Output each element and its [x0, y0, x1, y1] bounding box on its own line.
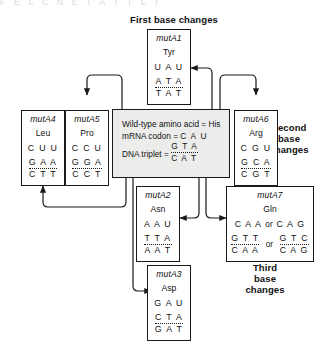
wire-center-to-muta2 [180, 178, 199, 218]
heading-first-base-changes: First base changes [114, 14, 234, 25]
figure-canvas: F E L C N E T A T T L T Fir [0, 0, 318, 349]
muta4-dna-triplet: G A A C T T [29, 158, 58, 179]
muta5-dna-bottom: C C T [72, 169, 102, 179]
node-muta7: mutA7 Gln C A A or C A G G T T C A A or … [226, 186, 314, 262]
muta7-dna-or: or [266, 240, 273, 250]
muta5-mrna-codon: C C U [66, 143, 108, 153]
muta5-dna-triplet: G G A C C T [72, 158, 102, 179]
wire-center-to-muta6 [220, 75, 256, 109]
muta3-dna-triplet: C T A G A T [155, 313, 183, 334]
muta7-dna-triplet-a: G T T C A A [231, 234, 259, 255]
muta1-label: mutA1 [148, 33, 190, 43]
muta7-mrna-a: C A A [235, 219, 262, 229]
wildtype-dna-top: G T A [171, 142, 198, 153]
muta7-dna-triplets: G T T C A A or G T C C A G [227, 234, 313, 255]
node-muta6: mutA6 Arg C G U G C A C G T [234, 110, 278, 186]
muta7-mrna-or: or [265, 219, 272, 229]
muta2-mrna-codon: A A U [137, 219, 179, 229]
muta4-label: mutA4 [22, 114, 64, 124]
muta7-dna-triplet-b: G T C C A G [280, 234, 309, 255]
muta2-dna-top: T T A [144, 234, 171, 245]
muta3-amino-acid: Asp [148, 283, 190, 293]
muta5-amino-acid: Pro [66, 128, 108, 138]
muta4-amino-acid: Leu [22, 128, 64, 138]
node-muta1: mutA1 Tyr U A U A T A T A T [147, 29, 191, 105]
wildtype-line-amino-acid: Wild-type amino acid = His [122, 119, 229, 131]
muta1-dna-bottom: T A T [155, 88, 182, 98]
wildtype-aa-label: Wild-type amino acid = [122, 119, 206, 129]
muta5-label: mutA5 [66, 114, 108, 124]
muta2-dna-triplet: T T A A A T [144, 234, 171, 255]
muta6-amino-acid: Arg [235, 128, 277, 138]
node-muta2: mutA2 Asn A A U T T A A A T [136, 186, 180, 262]
wildtype-line-dna: DNA triplet = G T A C A T [122, 142, 229, 163]
wire-center-to-muta5 [87, 75, 122, 109]
muta7-dna-a-top: G T T [231, 234, 259, 245]
muta2-label: mutA2 [137, 190, 179, 200]
heading-third-line3: changes [236, 284, 294, 295]
wire-center-to-muta7 [206, 178, 226, 218]
muta7-mrna-b: C A G [276, 219, 305, 229]
node-muta3: mutA3 Asp G A U C T A G A T [147, 265, 191, 341]
wildtype-dna-bottom: C A T [171, 153, 198, 163]
wire-center-to-muta1 [191, 68, 212, 109]
muta4-mrna-codon: C U U [22, 143, 64, 153]
muta3-mrna-codon: G A U [148, 298, 190, 308]
muta7-dna-a-bottom: C A A [231, 245, 259, 255]
muta6-dna-top: G C A [241, 158, 271, 169]
muta2-dna-bottom: A A T [144, 245, 171, 255]
muta5-dna-top: G G A [72, 158, 102, 169]
muta6-mrna-codon: C G U [235, 143, 277, 153]
muta7-dna-b-top: G T C [280, 234, 309, 245]
wildtype-dna-label: DNA triplet = [122, 149, 169, 159]
muta7-amino-acid: Gln [227, 204, 313, 214]
muta6-dna-bottom: C G T [241, 169, 271, 179]
wildtype-aa-value: His [208, 119, 220, 129]
heading-third-line1: Third [236, 262, 294, 273]
heading-third-line2: base [236, 273, 294, 284]
muta1-amino-acid: Tyr [148, 47, 190, 57]
muta6-label: mutA6 [235, 114, 277, 124]
muta3-label: mutA3 [148, 269, 190, 279]
muta7-dna-b-bottom: C A G [280, 245, 309, 255]
wildtype-mrna-value: C A U [180, 131, 207, 141]
wildtype-panel: Wild-type amino acid = His mRNA codon = … [112, 109, 230, 178]
muta4-dna-bottom: C T T [29, 169, 58, 179]
muta7-mrna-codons: C A A or C A G [227, 219, 313, 229]
wildtype-dna-triplet: G T A C A T [171, 142, 198, 163]
muta4-dna-top: G A A [29, 158, 58, 169]
muta1-dna-top: A T A [155, 77, 182, 88]
node-muta4: mutA4 Leu C U U G A A C T T [21, 110, 65, 186]
muta3-dna-bottom: G A T [155, 324, 183, 334]
muta3-dna-top: C T A [155, 313, 183, 324]
muta1-dna-triplet: A T A T A T [155, 77, 182, 98]
node-muta5: mutA5 Pro C C U G G A C C T [65, 110, 109, 186]
muta6-dna-triplet: G C A C G T [241, 158, 271, 179]
heading-third-base-changes: Third base changes [236, 262, 294, 295]
muta7-label: mutA7 [227, 190, 313, 200]
muta1-mrna-codon: U A U [148, 62, 190, 72]
muta2-amino-acid: Asn [137, 204, 179, 214]
wildtype-mrna-label: mRNA codon = [122, 131, 178, 141]
